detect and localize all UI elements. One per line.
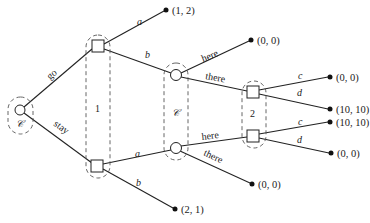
terminal-dot bbox=[164, 8, 169, 13]
chance-set-label: 𝒞 bbox=[172, 107, 182, 118]
payoff-top-c: (0, 0) bbox=[336, 72, 359, 84]
bottom-here-label: here bbox=[201, 129, 220, 142]
player2-top-node bbox=[247, 86, 259, 98]
info-set-2-label: 2 bbox=[250, 108, 255, 119]
game-tree: 𝒞 1 𝒞 2 go stay a b a b here there here … bbox=[0, 0, 370, 223]
edge-bottom-d bbox=[259, 138, 329, 153]
payoff-bottom-there: (0, 0) bbox=[258, 179, 281, 191]
payoff-top-here: (0, 0) bbox=[257, 35, 280, 47]
edge-top-b bbox=[104, 49, 171, 73]
player1-bottom-node bbox=[91, 160, 103, 172]
stay-label: stay bbox=[52, 118, 71, 136]
payoff-top-d: (10, 10) bbox=[336, 104, 370, 116]
root-label: 𝒞 bbox=[16, 118, 26, 129]
payoff-bottom-b: (2, 1) bbox=[181, 204, 204, 216]
edge-top-c bbox=[259, 77, 328, 90]
top-a-label: a bbox=[137, 16, 142, 27]
top-c-label: c bbox=[298, 70, 303, 81]
bottom-c-label: c bbox=[298, 116, 303, 127]
payoff-top-a: (1, 2) bbox=[172, 5, 195, 17]
bottom-a-label: a bbox=[135, 148, 140, 159]
root-chance-node bbox=[15, 105, 25, 115]
chance-bottom-node bbox=[171, 143, 182, 154]
top-d-label: d bbox=[297, 87, 303, 98]
bottom-d-label: d bbox=[297, 134, 303, 145]
terminal-dot bbox=[250, 182, 255, 187]
terminal-dot bbox=[249, 38, 254, 43]
info-set-1-label: 1 bbox=[95, 103, 100, 114]
edge-bottom-c bbox=[259, 122, 328, 134]
payoff-bottom-d: (0, 0) bbox=[337, 148, 360, 160]
terminal-dot bbox=[328, 120, 333, 125]
player1-top-node bbox=[92, 40, 104, 52]
payoff-bottom-c: (10, 10) bbox=[336, 117, 370, 129]
terminal-dot bbox=[328, 75, 333, 80]
terminal-dot bbox=[328, 107, 333, 112]
top-here-label: here bbox=[200, 47, 221, 64]
player2-bottom-node bbox=[247, 130, 259, 142]
edge-go bbox=[24, 49, 92, 107]
edge-top-d bbox=[259, 94, 328, 109]
bottom-b-label: b bbox=[136, 177, 141, 188]
terminal-dot bbox=[329, 151, 334, 156]
terminal-dot bbox=[173, 207, 178, 212]
edge-bottom-b bbox=[103, 169, 173, 208]
top-b-label: b bbox=[145, 49, 150, 60]
edge-top-a bbox=[104, 11, 164, 44]
chance-top-node bbox=[171, 70, 182, 81]
